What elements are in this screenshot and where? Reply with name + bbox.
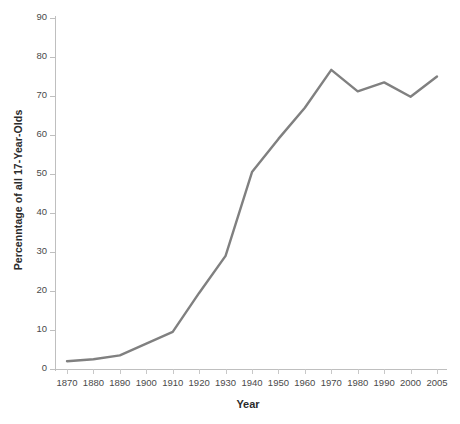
y-tick-label: 40 xyxy=(21,206,47,217)
data-series-line xyxy=(55,16,447,371)
y-tick-label: 50 xyxy=(21,167,47,178)
y-tick-label: 30 xyxy=(21,245,47,256)
line-chart: Percenntage of all 17-Year-Olds 01020304… xyxy=(0,0,460,424)
x-axis-title: Year xyxy=(36,398,460,410)
y-tick-label: 70 xyxy=(21,89,47,100)
y-tick-label: 0 xyxy=(21,362,47,373)
y-tick-label: 80 xyxy=(21,50,47,61)
y-tick-label: 60 xyxy=(21,128,47,139)
y-tick-label: 20 xyxy=(21,284,47,295)
x-tick-label: 2005 xyxy=(417,377,457,388)
plot-area: 0102030405060708090 18701880189019001910… xyxy=(55,16,447,371)
y-tick-label: 10 xyxy=(21,323,47,334)
y-tick-label: 90 xyxy=(21,11,47,22)
series-polyline xyxy=(67,70,437,361)
